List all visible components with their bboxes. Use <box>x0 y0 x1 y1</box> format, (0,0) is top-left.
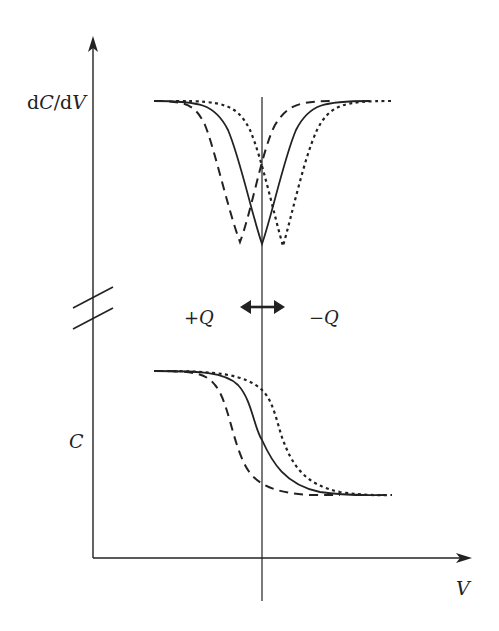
positive-charge-label: +Q <box>184 307 214 328</box>
negative-charge-label: −Q <box>309 307 339 328</box>
c-dashed-curve <box>154 371 340 495</box>
dcdv-dashed-curve <box>154 101 336 242</box>
c-curves <box>154 371 392 495</box>
c-dotted-curve <box>160 371 392 495</box>
capacitance-shift-diagram: dC/dV C V +Q −Q <box>0 0 499 631</box>
c-solid-curve <box>154 371 385 495</box>
y-axis-label-c: C <box>69 430 84 452</box>
y-axis-label-dcdv: dC/dV <box>27 91 88 113</box>
dcdv-dotted-curve <box>176 101 391 246</box>
x-axis-label-v: V <box>456 577 472 599</box>
x-axis <box>93 553 472 563</box>
dcdv-curves <box>154 101 391 246</box>
